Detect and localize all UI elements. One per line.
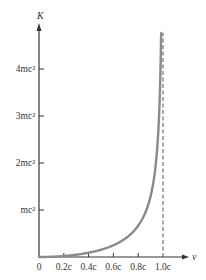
y-axis-label: K bbox=[36, 10, 45, 21]
y-axis-arrow-icon bbox=[37, 23, 42, 31]
x-tick-label: 0.2c bbox=[56, 262, 72, 272]
x-tick-label: 1.0c bbox=[155, 262, 171, 272]
x-tick-label: 0 bbox=[37, 262, 42, 272]
x-axis-label: v bbox=[192, 251, 197, 262]
y-tick-label: 2mc² bbox=[16, 158, 35, 168]
kinetic-energy-chart: 00.2c0.4c0.6c0.8c1.0cmc²2mc²3mc²4mc² K v bbox=[0, 0, 206, 280]
y-tick-label: mc² bbox=[21, 205, 36, 215]
y-tick-label: 3mc² bbox=[16, 111, 35, 121]
curve-path bbox=[39, 33, 161, 257]
x-tick-label: 0.6c bbox=[105, 262, 121, 272]
y-tick-label: 4mc² bbox=[16, 64, 35, 74]
x-tick-label: 0.4c bbox=[81, 262, 97, 272]
kinetic-energy-curve bbox=[39, 33, 161, 257]
x-axis-arrow-icon bbox=[182, 255, 189, 260]
x-tick-label: 0.8c bbox=[130, 262, 146, 272]
axes bbox=[37, 23, 190, 260]
